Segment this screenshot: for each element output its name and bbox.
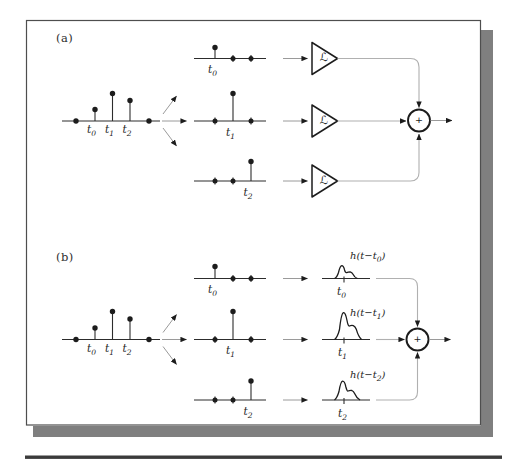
t0-label: t0 (87, 124, 96, 138)
t1-label: t1 (105, 124, 114, 138)
t0-label: t0 (337, 286, 346, 300)
t2-label: t2 (338, 408, 347, 422)
t2-label: t2 (244, 406, 253, 420)
t2-label: t2 (123, 343, 132, 357)
figure-page: (a) t0 t1 t2 t0 t1 t2 ℒ ℒ ℒ + (b) t0 t1 … (0, 0, 512, 464)
t1-label: t1 (226, 345, 235, 359)
system-L-label: ℒ (312, 175, 336, 187)
t0-label: t0 (208, 64, 217, 78)
t0-label: t0 (208, 284, 217, 298)
t2-label: t2 (123, 124, 132, 138)
t1-label: t1 (338, 347, 347, 361)
t2-label: t2 (244, 187, 253, 201)
figure-canvas (0, 0, 512, 464)
plus-sign: + (410, 334, 426, 344)
t1-label: t1 (105, 343, 114, 357)
t0-label: t0 (87, 343, 96, 357)
impulse-response-label-h1: h(t−t1) (350, 308, 385, 321)
system-L-label: ℒ (312, 52, 336, 64)
impulse-response-label-h2: h(t−t2) (350, 370, 385, 383)
panel-a-tag: (a) (56, 33, 73, 45)
impulse-response-label-h0: h(t−t0) (350, 251, 385, 264)
panel-b-tag: (b) (56, 252, 74, 264)
t1-label: t1 (226, 127, 235, 141)
figure-card (27, 21, 481, 426)
bottom-rule (25, 456, 502, 459)
system-L-label: ℒ (312, 115, 336, 127)
plus-sign: + (411, 115, 427, 125)
